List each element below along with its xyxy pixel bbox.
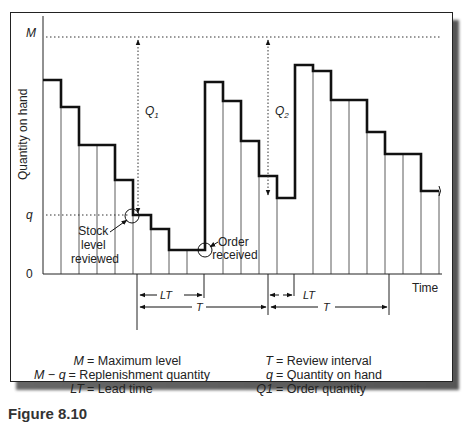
- q2-label: Q2: [275, 104, 289, 120]
- legend-item: T = Review interval: [235, 354, 435, 368]
- legend-text: = Review interval: [276, 354, 372, 368]
- order-received-label: Order received: [212, 235, 257, 262]
- y-label-zero: 0: [26, 267, 33, 281]
- interval-extension-lines: [137, 274, 389, 330]
- legend-text: = Quantity on hand: [276, 368, 382, 382]
- legend-text: = Order quantity: [276, 382, 366, 396]
- legend-text: = Lead time: [87, 382, 153, 396]
- lt1-label: LT: [160, 289, 173, 301]
- legend-symbol: T: [235, 354, 276, 368]
- t1-label: T: [196, 301, 204, 313]
- legend-text: = Maximum level: [87, 354, 181, 368]
- legend-item: LT = Lead time: [20, 382, 210, 396]
- legend-symbol: LT: [20, 382, 87, 396]
- t2-label: T: [323, 301, 331, 313]
- legend-symbol: Q1: [235, 382, 276, 396]
- legend-symbol: M − q: [20, 368, 69, 382]
- legend-symbol: q: [235, 368, 276, 382]
- legend-text: = Replenishment quantity: [69, 368, 210, 382]
- figure-caption: Figure 8.10: [8, 405, 87, 422]
- x-axis-title: Time: [412, 281, 439, 295]
- receipt-pointer: [210, 242, 218, 247]
- q1-label: Q1: [145, 104, 159, 120]
- legend-right: T = Review interval q = Quantity on hand…: [235, 354, 435, 396]
- legend-left: M = Maximum level M − q = Replenishment …: [20, 354, 210, 396]
- legend-item: M = Maximum level: [20, 354, 210, 368]
- legend-item: Q1 = Order quantity: [235, 382, 435, 396]
- y-axis-title: Quantity on hand: [16, 89, 30, 180]
- legend-item: q = Quantity on hand: [235, 368, 435, 382]
- y-label-max: M: [26, 26, 36, 40]
- legend-item: M − q = Replenishment quantity: [20, 368, 210, 382]
- legend-symbol: M: [20, 354, 87, 368]
- y-label-q: q: [26, 208, 33, 222]
- lt2-label: LT: [303, 289, 316, 301]
- review-pointer: [110, 220, 127, 232]
